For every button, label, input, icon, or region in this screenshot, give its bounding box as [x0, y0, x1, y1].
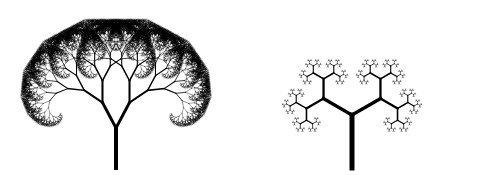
fractal-tree-right-canvas: [236, 0, 477, 175]
fractal-tree-left-canvas: [0, 0, 236, 175]
fractal-tree-right-panel: Fractal tree with 60-degree branching (h…: [236, 0, 477, 175]
fractal-tree-left-panel: Fractal tree with 30-degree branching (c…: [0, 0, 236, 175]
